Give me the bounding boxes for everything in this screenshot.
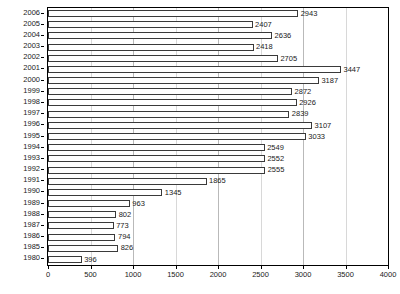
bar-series: 2943240726362418270534473187287229262839… [48,8,388,265]
y-tick-label-1990: 1990 [23,187,40,195]
bar-value-label: 396 [84,256,97,264]
bar-1997 [48,111,289,118]
bar-row: 2636 [48,30,291,41]
bar-chart: 2006200520042003200220012000199919981997… [0,0,400,294]
y-tick-label-1991: 1991 [23,176,40,184]
y-tick-mark [41,91,44,92]
y-tick-mark [41,136,44,137]
bar-value-label: 2407 [255,21,272,29]
bar-row: 3033 [48,131,325,142]
y-tick-mark [41,57,44,58]
y-tick-label-1998: 1998 [23,98,40,106]
bar-value-label: 2839 [292,110,309,118]
y-tick-label-1985: 1985 [23,243,40,251]
y-tick-label-2004: 2004 [23,31,40,39]
bar-value-label: 826 [121,244,134,252]
bar-1998 [48,99,297,106]
bar-row: 3447 [48,64,360,75]
bar-1986 [48,234,115,241]
bar-value-label: 2555 [268,166,285,174]
y-tick-label-1993: 1993 [23,154,40,162]
bar-row: 2705 [48,53,297,64]
y-tick-mark [41,68,44,69]
x-tick-mark-0 [48,266,49,269]
y-tick-label-1999: 1999 [23,87,40,95]
y-tick-label-1995: 1995 [23,132,40,140]
y-tick-mark [41,191,44,192]
bar-value-label: 2549 [267,144,284,152]
bar-row: 2926 [48,97,316,108]
y-tick-mark [41,13,44,14]
bar-value-label: 2926 [299,99,316,107]
bar-row: 2407 [48,19,272,30]
x-tick-mark-2000 [218,266,219,269]
x-tick-label-4000: 4000 [380,271,397,279]
y-tick-mark [41,214,44,215]
bar-value-label: 2705 [280,55,297,63]
y-tick-label-2002: 2002 [23,53,40,61]
y-tick-mark [41,169,44,170]
y-tick-mark [41,35,44,36]
y-tick-mark [41,147,44,148]
bar-row: 802 [48,209,131,220]
bar-value-label: 802 [119,211,132,219]
bar-value-label: 2943 [301,10,318,18]
bar-row: 2839 [48,109,309,120]
bar-value-label: 3187 [321,77,338,85]
x-tick-mark-3500 [346,266,347,269]
bar-1999 [48,88,292,95]
y-tick-mark [41,80,44,81]
y-tick-mark [41,225,44,226]
y-tick-label-2003: 2003 [23,42,40,50]
y-tick-mark [41,203,44,204]
bar-row: 3187 [48,75,338,86]
bar-row: 3107 [48,120,331,131]
bar-value-label: 2636 [275,32,292,40]
x-tick-mark-3000 [303,266,304,269]
y-axis-years: 2006200520042003200220012000199919981997… [0,7,44,266]
y-tick-mark [41,180,44,181]
bar-value-label: 1345 [165,189,182,197]
bar-1989 [48,200,130,207]
bar-row: 773 [48,220,129,231]
y-tick-mark [41,102,44,103]
x-tick-mark-2500 [261,266,262,269]
bar-1996 [48,122,312,129]
bar-value-label: 2872 [295,88,312,96]
bar-row: 1345 [48,187,182,198]
y-tick-label-1994: 1994 [23,143,40,151]
x-tick-label-0: 0 [46,271,50,279]
bar-1988 [48,211,116,218]
y-tick-mark [41,236,44,237]
bar-1992 [48,167,265,174]
bar-value-label: 3107 [315,122,332,130]
y-tick-label-1997: 1997 [23,109,40,117]
bar-1994 [48,144,265,151]
y-tick-mark [41,124,44,125]
bar-row: 963 [48,198,145,209]
bar-row: 1865 [48,176,226,187]
y-tick-mark [41,247,44,248]
bar-2001 [48,66,341,73]
bar-1987 [48,222,114,229]
bar-1985 [48,245,118,252]
bar-row: 826 [48,243,133,254]
x-tick-mark-500 [91,266,92,269]
y-tick-mark [41,158,44,159]
bar-2003 [48,44,254,51]
bar-1993 [48,155,265,162]
bar-2004 [48,32,272,39]
y-tick-label-1987: 1987 [23,221,40,229]
bar-row: 2555 [48,164,284,175]
bar-row: 2552 [48,153,284,164]
x-tick-mark-1000 [133,266,134,269]
bar-1980 [48,256,82,263]
x-tick-mark-1500 [176,266,177,269]
bar-2006 [48,10,298,17]
y-tick-label-2001: 2001 [23,64,40,72]
y-tick-label-1980: 1980 [23,254,40,262]
bar-row: 2418 [48,42,273,53]
bar-2000 [48,77,319,84]
bar-value-label: 773 [116,222,129,230]
bar-value-label: 2418 [256,43,273,51]
